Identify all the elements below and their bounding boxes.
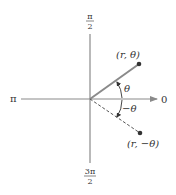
label-zero: 0: [161, 94, 167, 105]
label-3pi-over-2-den: 2: [87, 177, 92, 186]
label-point-r-negative-theta: (r, −θ): [127, 138, 159, 149]
ray-theta: [90, 64, 139, 99]
theta-arc: [117, 82, 122, 98]
label-3pi-over-2-num: 3π: [85, 167, 95, 176]
polar-diagram: π 2 π 0 3π 2 (r, θ) (r, −θ) θ −θ: [0, 0, 176, 195]
label-negative-theta: −θ: [122, 103, 136, 114]
label-pi-over-2-den: 2: [87, 22, 92, 31]
label-point-r-theta: (r, θ): [116, 49, 140, 60]
label-pi-over-2-num: π: [87, 12, 92, 21]
label-pi: π: [10, 93, 17, 104]
point-r-negative-theta: [138, 131, 143, 136]
label-theta: θ: [124, 83, 130, 94]
point-r-theta: [137, 62, 142, 67]
